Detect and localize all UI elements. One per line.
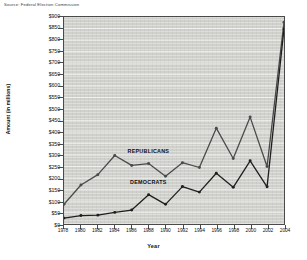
data-point-marker: [113, 211, 116, 214]
data-point-marker: [198, 191, 201, 194]
y-tick-label: $750: [20, 48, 60, 54]
y-tick-label: $0: [20, 222, 60, 228]
series-line: [64, 22, 284, 204]
series-label-democrats: DEMOCRATS: [130, 179, 167, 185]
y-tick-label: $400: [20, 129, 60, 135]
data-point-marker: [198, 166, 201, 169]
data-point-marker: [232, 186, 235, 189]
x-tick-label: 1988: [143, 228, 153, 233]
x-tick-label: 2004: [280, 228, 290, 233]
x-tick-label: 1998: [229, 228, 239, 233]
x-tick-label: 1990: [160, 228, 170, 233]
x-tick-label: 1992: [177, 228, 187, 233]
data-point-marker: [232, 157, 235, 160]
data-point-marker: [215, 172, 218, 175]
x-tick-label: 2000: [246, 228, 256, 233]
x-tick-label: 1978: [58, 228, 68, 233]
x-tick-label: 2002: [263, 228, 273, 233]
y-tick-label: $550: [20, 94, 60, 100]
y-tick-label: $200: [20, 175, 60, 181]
x-tick-label: 1982: [92, 228, 102, 233]
y-tick-label: $700: [20, 59, 60, 65]
x-axis-tick-labels: 1978198019821984198619881990199219941996…: [0, 228, 307, 240]
chart-svg: [64, 17, 284, 224]
y-tick-label: $150: [20, 187, 60, 193]
data-point-marker: [164, 175, 167, 178]
y-tick-label: $850: [20, 24, 60, 30]
y-tick-label: $300: [20, 152, 60, 158]
data-point-marker: [96, 214, 99, 217]
data-point-marker: [79, 214, 82, 217]
x-tick-label: 1986: [126, 228, 136, 233]
y-tick-label: $900: [20, 13, 60, 19]
x-tick-label: 1984: [109, 228, 119, 233]
y-tick-label: $500: [20, 106, 60, 112]
y-axis-title: Amount (in millions): [5, 50, 11, 168]
plot-area: [63, 16, 285, 225]
data-point-marker: [249, 159, 252, 162]
y-tick-label: $50: [20, 210, 60, 216]
data-point-marker: [147, 162, 150, 165]
x-tick-label: 1980: [75, 228, 85, 233]
data-point-marker: [215, 127, 218, 130]
y-axis-tick-labels: $900$850$800$750$700$650$600$550$500$450…: [18, 0, 60, 260]
x-tick-label: 1994: [194, 228, 204, 233]
data-point-marker: [64, 217, 65, 220]
data-point-marker: [266, 165, 269, 168]
y-tick-label: $650: [20, 71, 60, 77]
data-point-marker: [181, 185, 184, 188]
y-tick-label: $800: [20, 36, 60, 42]
data-point-marker: [130, 209, 133, 212]
data-point-marker: [96, 173, 99, 176]
y-tick-label: $250: [20, 164, 60, 170]
y-tick-label: $100: [20, 199, 60, 205]
data-point-marker: [266, 185, 269, 188]
data-point-marker: [164, 203, 167, 206]
data-point-marker: [282, 21, 283, 24]
x-tick-label: 1996: [211, 228, 221, 233]
y-tick-label: $600: [20, 82, 60, 88]
data-point-marker: [147, 193, 150, 196]
data-point-marker: [181, 161, 184, 164]
y-tick-label: $450: [20, 117, 60, 123]
series-label-republicans: REPUBLICANS: [128, 148, 170, 154]
chart-page: Source: Federal Election Commission Amou…: [0, 0, 307, 260]
y-tick-label: $350: [20, 141, 60, 147]
data-point-marker: [249, 116, 252, 119]
data-point-marker: [79, 184, 82, 187]
data-point-marker: [130, 164, 133, 167]
data-point-marker: [113, 154, 116, 157]
